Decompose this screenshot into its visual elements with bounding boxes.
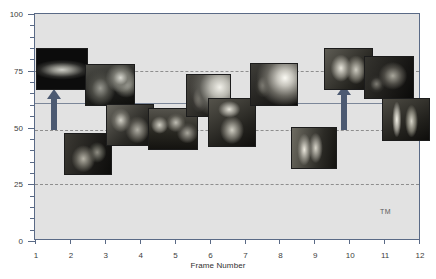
thumbnail-image [37, 49, 87, 89]
y-tick-0: 0 [28, 241, 35, 242]
x-tick-label-11: 11 [375, 250, 395, 261]
thumbnail-image [107, 105, 153, 145]
x-axis-title: Frame Number [0, 261, 436, 270]
frame-thumbnail-9 [291, 127, 337, 169]
arrow-shaft [341, 94, 347, 130]
frame-thumbnail-3 [64, 133, 112, 175]
y-minor-tick [30, 150, 35, 151]
thumbnail-image [86, 65, 134, 105]
x-tick-label-4: 4 [131, 250, 151, 261]
x-tick-label-2: 2 [61, 250, 81, 261]
frame-thumbnail-12 [382, 98, 430, 141]
y-tick-100: 100 [28, 14, 35, 15]
frame-thumbnail-2 [85, 64, 135, 106]
y-minor-tick [30, 93, 35, 94]
x-tick-label-8: 8 [270, 250, 290, 261]
y-minor-tick [30, 116, 35, 117]
x-tick-label-7: 7 [236, 250, 256, 261]
frame-thumbnail-11 [364, 56, 414, 99]
x-tick-11: 11 [384, 239, 385, 244]
x-tick-label-1: 1 [26, 250, 46, 261]
x-tick-12: 12 [419, 239, 420, 244]
x-tick-9: 9 [314, 239, 315, 244]
frame-thumbnail-8 [250, 63, 298, 106]
y-tick-75: 75 [28, 71, 35, 72]
y-tick-label-75: 75 [14, 66, 23, 77]
y-minor-tick [30, 37, 35, 38]
x-tick-7: 7 [245, 239, 246, 244]
y-tick-label-50: 50 [14, 123, 23, 134]
chart-figure: Percentage Recalling Image Frame Number … [0, 0, 436, 279]
reference-line-25 [35, 184, 419, 185]
y-tick-50: 50 [28, 128, 35, 129]
x-tick-label-12: 12 [410, 250, 430, 261]
frame-thumbnail-4 [106, 104, 154, 146]
y-minor-tick [30, 230, 35, 231]
y-tick-label-0: 0 [19, 236, 23, 247]
y-tick-25: 25 [28, 184, 35, 185]
x-tick-10: 10 [349, 239, 350, 244]
x-tick-label-10: 10 [340, 250, 360, 261]
x-tick-label-3: 3 [96, 250, 116, 261]
frame-thumbnail-1 [36, 48, 88, 90]
y-minor-tick [30, 105, 35, 106]
y-minor-tick [30, 139, 35, 140]
x-tick-6: 6 [210, 239, 211, 244]
y-minor-tick [30, 59, 35, 60]
thumbnail-image [383, 99, 429, 140]
thumbnail-image [251, 64, 297, 105]
thumbnail-image [209, 99, 255, 146]
y-minor-tick [30, 207, 35, 208]
tm-annotation: TM [380, 208, 391, 215]
y-minor-tick [30, 173, 35, 174]
thumbnail-image [365, 57, 413, 98]
y-minor-tick [30, 218, 35, 219]
annotation-arrow-left [47, 89, 61, 130]
arrow-shaft [51, 98, 57, 130]
x-tick-1: 1 [35, 239, 36, 244]
y-minor-tick [30, 82, 35, 83]
x-tick-2: 2 [70, 239, 71, 244]
x-tick-4: 4 [140, 239, 141, 244]
frame-thumbnail-7 [208, 98, 256, 147]
thumbnail-image [65, 134, 111, 174]
x-tick-8: 8 [279, 239, 280, 244]
y-minor-tick [30, 162, 35, 163]
x-tick-5: 5 [175, 239, 176, 244]
y-minor-tick [30, 196, 35, 197]
thumbnail-image [292, 128, 336, 168]
x-tick-label-6: 6 [201, 250, 221, 261]
y-minor-tick [30, 25, 35, 26]
annotation-arrow-right [337, 85, 351, 130]
y-minor-tick [30, 48, 35, 49]
x-tick-label-5: 5 [166, 250, 186, 261]
y-tick-label-100: 100 [10, 9, 23, 20]
x-tick-label-9: 9 [305, 250, 325, 261]
x-tick-3: 3 [105, 239, 106, 244]
y-tick-label-25: 25 [14, 179, 23, 190]
